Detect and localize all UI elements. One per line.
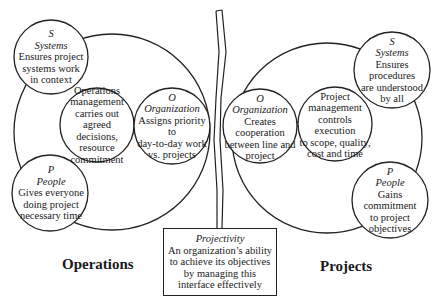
projects-title: Projects [320, 258, 372, 275]
node-text: in context [30, 74, 72, 86]
node-text: commitment [363, 200, 416, 212]
projects-people-node: P People Gains commitment to project obj… [355, 166, 425, 234]
systems-name: Systems [375, 47, 408, 59]
node-text: management [308, 102, 362, 114]
systems-name: Systems [34, 40, 67, 52]
node-text: to scope, quality, [299, 137, 370, 149]
node-text: systems work [22, 63, 79, 75]
operations-organization-node: O Organization Assigns priority to day-t… [134, 97, 210, 155]
node-text: to project [370, 212, 410, 224]
box-text: interface effectively [178, 279, 262, 291]
organization-name: Organization [232, 104, 288, 116]
node-text: Ensures project [18, 51, 83, 63]
people-name: People [36, 176, 65, 188]
projectivity-box: Projectivity An organization’s ability t… [163, 228, 277, 296]
box-text: An organization’s ability [168, 245, 272, 257]
node-text: Assigns priority to [134, 115, 210, 138]
operations-systems-node: S Systems Ensures project systems work i… [17, 27, 85, 87]
systems-letter: S [389, 36, 394, 48]
node-text: Operations [74, 85, 120, 97]
operations-people-node: P People Gives everyone doing project ne… [14, 163, 88, 223]
projects-center-node: Project management controls execution to… [297, 96, 373, 154]
node-text: Gives everyone [18, 187, 84, 199]
node-text: cooperation [235, 127, 285, 139]
people-letter: P [48, 164, 54, 176]
organization-letter: O [256, 93, 264, 105]
node-text: day-to-day work [137, 138, 207, 150]
box-text: to achieve its objectives [170, 256, 271, 268]
systems-letter: S [48, 28, 53, 40]
projectivity-name: Projectivity [196, 233, 245, 245]
node-text: Ensures procedures [354, 59, 430, 82]
projects-systems-node: S Systems Ensures procedures are underst… [354, 40, 430, 100]
projects-organization-node: O Organization Creates cooperation betwe… [223, 96, 297, 158]
node-text: cost and time [307, 148, 363, 160]
node-text: necessary time [20, 210, 82, 222]
organization-name: Organization [144, 103, 200, 115]
node-text: Gains [378, 189, 403, 201]
node-text: between line and [224, 139, 295, 151]
node-text: carries out agreed [60, 108, 134, 131]
node-text: Project [320, 91, 350, 103]
people-letter: P [387, 166, 393, 178]
node-text: project [245, 150, 274, 162]
node-text: are understood [361, 82, 423, 94]
operations-center-node: Operations management carries out agreed… [60, 96, 134, 154]
node-text: controls execution [297, 114, 373, 137]
operations-title: Operations [62, 256, 134, 273]
node-text: decisions, resource [60, 131, 134, 154]
node-text: vs. projects [148, 149, 196, 161]
node-text: doing project [23, 199, 79, 211]
people-name: People [375, 177, 404, 189]
box-text: by managing this [184, 268, 256, 280]
node-text: management [70, 96, 124, 108]
organization-letter: O [168, 92, 176, 104]
node-text: objectives [369, 223, 412, 235]
node-text: by all [380, 93, 404, 105]
node-text: Creates [244, 116, 276, 128]
